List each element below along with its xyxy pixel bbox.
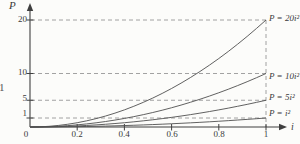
x-tick-label-0.6: 0.6 xyxy=(166,129,177,139)
power-vs-current-chart: P i 1 00.20.40.60.81201051 P = 20i²P = 1… xyxy=(0,0,300,144)
x-tick-label-0.4: 0.4 xyxy=(118,129,129,139)
y-axis-label: P xyxy=(9,0,16,10)
x-axis-label: i xyxy=(291,122,294,132)
x-axis-arrowhead xyxy=(279,124,287,130)
curve-label-10i2: P = 10i² xyxy=(269,71,299,81)
curve-label-20i2: P = 20i² xyxy=(269,13,299,23)
x-tick-label-0: 0 xyxy=(24,129,29,139)
curve-label-5i2: P = 5i² xyxy=(269,92,295,102)
y-tick-label-1: 1 xyxy=(0,108,27,118)
curve-label-1i2: P = i² xyxy=(269,108,290,118)
y-tick-label-20: 20 xyxy=(0,14,27,24)
y-tick-label-10: 10 xyxy=(0,67,27,77)
y-tick-label-5: 5 xyxy=(0,93,27,103)
y-axis-arrowhead xyxy=(27,3,33,11)
x-tick-label-0.2: 0.2 xyxy=(71,129,82,139)
stray-left-edge-character: 1 xyxy=(0,82,5,92)
plot-area xyxy=(0,0,300,144)
x-tick-label-0.8: 0.8 xyxy=(213,129,224,139)
x-tick-label-1: 1 xyxy=(264,129,269,139)
